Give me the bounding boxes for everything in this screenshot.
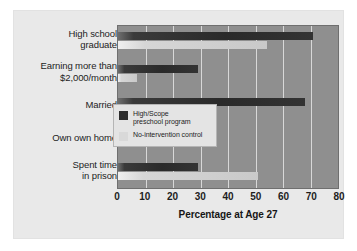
chart-legend: High/Scopepreschool programNo-interventi… <box>113 104 217 147</box>
legend-swatch <box>119 132 128 141</box>
x-tick-label: 80 <box>333 191 344 202</box>
x-axis-ticks: 01020304050607080 <box>117 191 339 205</box>
category-label: Own own home <box>18 132 117 144</box>
bar-control <box>118 172 258 180</box>
x-tick-label: 40 <box>222 191 233 202</box>
legend-item: High/Scopepreschool program <box>119 110 211 127</box>
category-label-line: Married <box>18 99 117 111</box>
x-tick-label: 20 <box>167 191 178 202</box>
x-tick-label: 70 <box>306 191 317 202</box>
category-label-line: Spent time <box>18 159 117 171</box>
legend-swatch <box>119 111 128 120</box>
bar-control <box>118 74 137 82</box>
category-label-line: Earning more than <box>18 60 117 72</box>
category-label: Spent timein prison <box>18 159 117 182</box>
category-label-line: $2,000/month <box>18 72 117 84</box>
x-axis-title: Percentage at Age 27 <box>117 209 339 220</box>
legend-label-line: No-intervention control <box>133 131 202 139</box>
legend-label-line: High/Scope <box>133 110 191 118</box>
legend-label-line: preschool program <box>133 118 191 126</box>
bar-group <box>118 26 338 59</box>
category-label: Married <box>18 99 117 111</box>
x-tick-label: 0 <box>114 191 120 202</box>
category-label-line: Own own home <box>18 132 117 144</box>
x-tick-label: 50 <box>250 191 261 202</box>
x-tick-label: 10 <box>139 191 150 202</box>
bar-program <box>118 65 198 73</box>
category-label: Earning more than$2,000/month <box>18 60 117 83</box>
x-tick-label: 60 <box>278 191 289 202</box>
legend-label: No-intervention control <box>133 131 202 139</box>
bar-control <box>118 41 267 49</box>
chart-figure: High schoolgraduateEarning more than$2,0… <box>0 0 357 251</box>
category-axis-labels: High schoolgraduateEarning more than$2,0… <box>18 25 117 189</box>
bar-group <box>118 59 338 92</box>
category-label-line: in prison <box>18 170 117 182</box>
category-label-line: High school <box>18 28 117 40</box>
bar-program <box>118 163 198 171</box>
bar-group <box>118 157 338 189</box>
legend-item: No-intervention control <box>119 131 211 141</box>
x-tick-label: 30 <box>195 191 206 202</box>
category-label: High schoolgraduate <box>18 28 117 51</box>
category-label-line: graduate <box>18 39 117 51</box>
bar-program <box>118 32 313 40</box>
legend-label: High/Scopepreschool program <box>133 110 191 127</box>
